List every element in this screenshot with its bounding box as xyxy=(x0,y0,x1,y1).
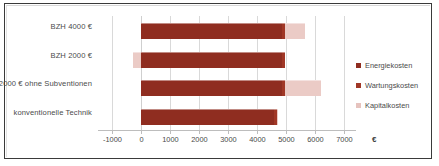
axis-tick xyxy=(344,130,345,134)
chart-row: konventionelle Technik xyxy=(98,102,356,131)
category-label: BZH 4000 € xyxy=(50,22,92,31)
bar-segment-kapitalkosten[interactable] xyxy=(285,23,305,39)
legend-item-wartungskosten: Wartungskosten xyxy=(356,78,438,93)
chart-row: BZH 4000 € xyxy=(98,16,356,45)
bar-segment-kapitalkosten[interactable] xyxy=(133,52,142,68)
axis-tick xyxy=(286,130,287,134)
legend-swatch-icon xyxy=(356,83,361,88)
bar-track xyxy=(98,109,356,124)
axis-tick xyxy=(141,130,142,134)
bar-segment-energiekosten[interactable] xyxy=(141,109,274,125)
category-label: BZH 2000 € xyxy=(50,51,92,60)
axis-tick-label: 1000 xyxy=(162,135,178,144)
axis-tick xyxy=(112,130,113,134)
bar-track xyxy=(98,52,356,67)
bar-segment-wartungskosten[interactable] xyxy=(282,52,285,68)
x-axis: -100001000200030004000500060007000 xyxy=(98,130,356,131)
axis-tick-label: 6000 xyxy=(307,135,323,144)
legend-label: Kapitalkosten xyxy=(365,101,409,110)
bar-segment-energiekosten[interactable] xyxy=(141,52,282,68)
bar-segment-energiekosten[interactable] xyxy=(141,23,282,39)
category-label: BZH 2000 € ohne Subventionen xyxy=(0,79,92,88)
chart-row: BZH 2000 € xyxy=(98,45,356,74)
legend-swatch-icon xyxy=(356,63,361,68)
axis-tick xyxy=(257,130,258,134)
axis-tick xyxy=(315,130,316,134)
axis-tick-label: 5000 xyxy=(278,135,294,144)
chart-legend: Energiekosten Wartungskosten Kapitalkost… xyxy=(356,58,438,118)
axis-tick-label: 4000 xyxy=(249,135,265,144)
axis-tick xyxy=(228,130,229,134)
legend-label: Wartungskosten xyxy=(365,81,418,90)
bar-track xyxy=(98,23,356,38)
plot-area: BZH 4000 €BZH 2000 €BZH 2000 € ohne Subv… xyxy=(98,16,356,130)
category-label: konventionelle Technik xyxy=(14,108,92,117)
x-axis-unit-label: € xyxy=(372,135,376,144)
legend-label: Energiekosten xyxy=(365,61,412,70)
legend-item-kapitalkosten: Kapitalkosten xyxy=(356,98,438,113)
legend-item-energiekosten: Energiekosten xyxy=(356,58,438,73)
axis-tick-label: 2000 xyxy=(191,135,207,144)
bar-segment-kapitalkosten[interactable] xyxy=(277,109,278,125)
axis-tick-label: 7000 xyxy=(336,135,352,144)
axis-tick xyxy=(199,130,200,134)
legend-swatch-icon xyxy=(356,103,361,108)
bar-segment-kapitalkosten[interactable] xyxy=(285,80,321,96)
axis-tick-label: 0 xyxy=(139,135,143,144)
stacked-bar-chart: BZH 4000 €BZH 2000 €BZH 2000 € ohne Subv… xyxy=(0,0,439,166)
axis-tick xyxy=(170,130,171,134)
bar-track xyxy=(98,80,356,95)
axis-tick-label: 3000 xyxy=(220,135,236,144)
bar-segment-energiekosten[interactable] xyxy=(141,80,282,96)
axis-tick-label: -1000 xyxy=(103,135,122,144)
chart-row: BZH 2000 € ohne Subventionen xyxy=(98,73,356,102)
